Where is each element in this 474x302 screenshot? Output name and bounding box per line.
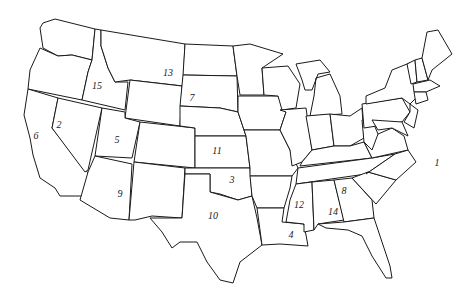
state-arkansas	[250, 176, 292, 208]
state-michigan	[296, 60, 342, 116]
label-13: 13	[163, 68, 173, 78]
label-7: 7	[190, 93, 195, 103]
label-1: 1	[435, 158, 440, 168]
label-8: 8	[342, 186, 347, 196]
label-15: 15	[92, 81, 102, 91]
state-maine	[422, 30, 452, 80]
label-2: 2	[57, 120, 62, 130]
label-9: 9	[118, 189, 123, 199]
label-5: 5	[115, 135, 120, 145]
label-10: 10	[208, 211, 218, 221]
label-14: 14	[328, 207, 338, 217]
state-iowa	[238, 96, 286, 130]
label-3: 3	[230, 175, 235, 185]
state-kansas	[195, 136, 250, 168]
state-new-mexico	[129, 162, 185, 220]
label-4: 4	[289, 230, 294, 240]
state-colorado	[134, 122, 195, 168]
state-florida	[318, 218, 392, 278]
state-north-dakota	[183, 44, 237, 76]
us-states-map	[0, 0, 474, 302]
label-12: 12	[294, 200, 304, 210]
label-11: 11	[212, 146, 221, 156]
state-wyoming	[125, 80, 182, 126]
state-connecticut	[414, 92, 428, 104]
label-6: 6	[34, 131, 39, 141]
